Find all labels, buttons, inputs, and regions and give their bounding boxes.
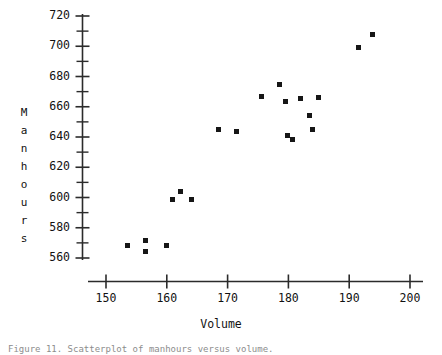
data-point (277, 82, 282, 87)
data-point (234, 129, 239, 134)
data-point (125, 243, 130, 248)
y-tick-label: 680 (34, 71, 70, 83)
data-point (310, 127, 315, 132)
y-tick-label: 640 (34, 131, 70, 143)
x-tick-label: 160 (149, 293, 185, 305)
data-point (298, 96, 303, 101)
data-point (164, 243, 169, 248)
y-axis-title-char: M (17, 104, 31, 122)
data-point (283, 99, 288, 104)
x-tick-label: 200 (392, 293, 428, 305)
data-point (307, 113, 312, 118)
data-point (356, 45, 361, 50)
y-axis-title-char: r (17, 212, 31, 230)
data-point (170, 197, 175, 202)
x-axis-title: Volume (0, 317, 442, 331)
y-axis-title: Manhours (17, 104, 31, 248)
x-tick-label: 190 (331, 293, 367, 305)
x-tick-label: 150 (88, 293, 124, 305)
y-axis-title-char: o (17, 176, 31, 194)
data-point (290, 137, 295, 142)
y-tick-label: 700 (34, 40, 70, 52)
data-point (316, 95, 321, 100)
data-point (178, 189, 183, 194)
figure-caption: Figure 11. Scatterplot of manhours versu… (8, 344, 438, 355)
y-tick-label: 720 (34, 10, 70, 22)
data-point (259, 94, 264, 99)
y-tick-label: 580 (34, 222, 70, 234)
data-point (216, 127, 221, 132)
y-tick-label: 620 (34, 161, 70, 173)
y-axis-title-char: h (17, 158, 31, 176)
y-tick-label: 560 (34, 252, 70, 264)
y-tick-label: 600 (34, 192, 70, 204)
x-tick-label: 170 (210, 293, 246, 305)
data-point (189, 197, 194, 202)
y-tick-label: 660 (34, 101, 70, 113)
data-point (143, 238, 148, 243)
data-point (143, 249, 148, 254)
x-tick-label: 180 (270, 293, 306, 305)
y-axis-title-char: n (17, 140, 31, 158)
data-point (370, 32, 375, 37)
y-axis-title-char: s (17, 230, 31, 248)
y-axis-title-char: a (17, 122, 31, 140)
y-axis-title-char: u (17, 194, 31, 212)
